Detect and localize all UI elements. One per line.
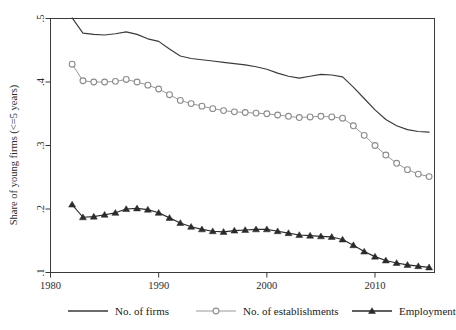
chart-figure: Share of young firms (<=5 years) .5.4.3.… — [0, 0, 456, 330]
data-point-marker — [69, 61, 75, 67]
x-tick-label: 2010 — [365, 280, 386, 291]
data-point-marker — [286, 113, 292, 119]
x-tick-label: 2000 — [256, 280, 277, 291]
series-line — [72, 18, 429, 132]
legend-item-employment[interactable]: Employment — [352, 305, 456, 317]
data-point-marker — [350, 242, 357, 248]
data-point-marker — [361, 132, 367, 138]
data-point-marker — [102, 79, 108, 85]
data-point-marker — [177, 220, 184, 226]
data-point-marker — [145, 82, 151, 88]
data-point-marker — [264, 111, 270, 117]
data-point-marker — [123, 77, 129, 83]
data-point-marker — [372, 253, 379, 259]
data-point-marker — [188, 101, 194, 107]
series-no-of-firms — [72, 18, 429, 132]
data-point-marker — [329, 114, 335, 120]
series-employment — [69, 201, 433, 270]
data-point-marker — [231, 109, 237, 115]
data-point-marker — [318, 113, 324, 119]
y-tick-label: .2 — [35, 205, 46, 213]
legend-item-no-of-firms[interactable]: No. of firms — [68, 305, 169, 317]
x-axis-ticks: 1980199020002010 — [40, 273, 386, 291]
legend-item-label: Employment — [399, 305, 456, 317]
data-point-marker — [350, 123, 356, 129]
data-point-marker — [242, 110, 248, 116]
data-point-marker — [275, 112, 281, 118]
data-series-group — [69, 18, 433, 270]
data-point-marker — [80, 78, 86, 84]
data-point-marker — [69, 201, 76, 207]
y-axis-title: Share of young firms (<=5 years) — [8, 84, 20, 225]
data-point-marker — [210, 106, 216, 112]
chart-legend: No. of firmsNo. of establishmentsEmploym… — [68, 305, 456, 317]
y-tick-label: .3 — [35, 142, 46, 150]
data-point-marker — [253, 110, 259, 116]
data-point-marker — [156, 86, 162, 92]
y-tick-label: .1 — [35, 269, 46, 277]
data-point-marker — [167, 92, 173, 98]
y-tick-label: .5 — [35, 15, 46, 23]
data-point-marker — [199, 103, 205, 109]
x-tick-label: 1980 — [40, 280, 61, 291]
data-point-marker — [361, 248, 368, 254]
chart-canvas: Share of young firms (<=5 years) .5.4.3.… — [0, 0, 456, 330]
data-point-marker — [177, 98, 183, 104]
legend-item-label: No. of firms — [115, 305, 169, 317]
legend-item-no-of-establishments[interactable]: No. of establishments — [196, 305, 339, 317]
data-point-marker — [166, 215, 173, 221]
data-point-marker — [426, 174, 432, 180]
data-point-marker — [415, 171, 421, 177]
data-point-marker — [296, 115, 302, 121]
data-point-marker — [383, 152, 389, 158]
y-axis-title-text: Share of young firms (<=5 years) — [8, 84, 20, 225]
data-point-marker — [372, 143, 378, 149]
data-point-marker — [307, 114, 313, 120]
data-point-marker — [221, 108, 227, 114]
data-point-marker — [91, 79, 97, 85]
series-no-of-establishments — [69, 61, 432, 179]
data-point-marker — [394, 160, 400, 166]
legend-circle-marker — [213, 308, 219, 314]
x-tick-label: 1990 — [148, 280, 169, 291]
data-point-marker — [113, 78, 119, 84]
data-point-marker — [340, 115, 346, 121]
y-axis-ticks: .5.4.3.2.1 — [35, 15, 51, 277]
data-point-marker — [405, 167, 411, 173]
data-point-marker — [134, 79, 140, 85]
y-tick-label: .4 — [35, 77, 46, 86]
legend-item-label: No. of establishments — [243, 305, 339, 317]
